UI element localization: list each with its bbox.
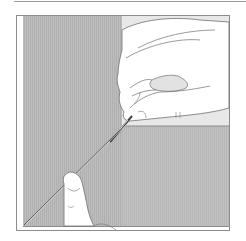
upper-hand xyxy=(117,18,229,121)
illustration xyxy=(0,0,246,241)
panel-bottom-right xyxy=(122,126,229,226)
